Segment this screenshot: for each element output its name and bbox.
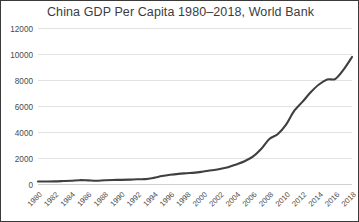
x-axis-tick-label: 2018 bbox=[340, 190, 358, 208]
x-axis-tick-label: 2010 bbox=[273, 190, 291, 208]
y-axis-tick-label: 0 bbox=[28, 181, 33, 190]
gdp-per-capita-line bbox=[38, 57, 352, 181]
x-axis-tick-labels: 1980198219841986198819901992199419961998… bbox=[26, 190, 358, 208]
data-series-group bbox=[38, 57, 352, 181]
x-axis-tick-label: 1994 bbox=[141, 190, 159, 208]
x-axis-tick-label: 2016 bbox=[323, 190, 341, 208]
x-axis-tick-label: 1998 bbox=[174, 190, 192, 208]
x-axis-tick-label: 1984 bbox=[59, 190, 77, 208]
x-axis-tick-label: 2012 bbox=[290, 190, 308, 208]
x-axis-tick-label: 1992 bbox=[125, 190, 143, 208]
x-axis-tick-label: 2006 bbox=[240, 190, 258, 208]
gridlines-group bbox=[38, 29, 352, 185]
x-axis-tick-label: 1986 bbox=[75, 190, 93, 208]
x-axis-tick-label: 1988 bbox=[92, 190, 110, 208]
x-axis-tick-label: 1980 bbox=[26, 190, 44, 208]
x-axis-tick-label: 1982 bbox=[42, 190, 60, 208]
y-axis-tick-label: 10000 bbox=[10, 51, 33, 60]
y-axis-tick-label: 8000 bbox=[15, 77, 34, 86]
y-axis-tick-label: 2000 bbox=[15, 155, 34, 164]
y-axis-tick-label: 12000 bbox=[10, 25, 33, 34]
x-axis-tick-label: 2000 bbox=[191, 190, 209, 208]
x-axis-tick-label: 2004 bbox=[224, 190, 242, 208]
y-axis-tick-label: 6000 bbox=[15, 103, 34, 112]
x-axis-tick-label: 1990 bbox=[108, 190, 126, 208]
line-chart-plot: 020004000600080001000012000 198019821984… bbox=[1, 1, 359, 222]
x-axis-tick-label: 2002 bbox=[207, 190, 225, 208]
x-axis-tick-label: 2008 bbox=[257, 190, 275, 208]
y-axis-tick-labels: 020004000600080001000012000 bbox=[10, 25, 33, 190]
y-axis-tick-label: 4000 bbox=[15, 129, 34, 138]
x-axis-tick-label: 2014 bbox=[307, 190, 325, 208]
x-axis-tick-label: 1996 bbox=[158, 190, 176, 208]
chart-figure: China GDP Per Capita 1980–2018, World Ba… bbox=[0, 0, 359, 222]
